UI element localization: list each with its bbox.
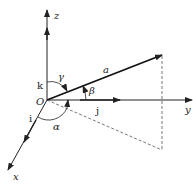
projection-base-dashed: [47, 100, 162, 150]
vector-a-label: a: [103, 64, 109, 75]
x-axis-label: x: [13, 171, 19, 182]
x-axis: [8, 100, 47, 170]
y-axis-label: y: [184, 104, 191, 115]
z-axis-label: z: [53, 10, 60, 21]
unit-vector-k-label: k: [37, 80, 44, 91]
angle-gamma-arc: [47, 82, 67, 91]
angle-gamma-label: γ: [58, 71, 64, 82]
origin-label: O: [36, 96, 44, 107]
angle-beta-arc: [83, 86, 86, 100]
angle-beta-label: β: [88, 85, 95, 96]
unit-vector-i-label: i: [29, 113, 32, 124]
unit-vector-j-label: j: [95, 105, 99, 116]
angle-alpha-label: α: [53, 121, 60, 132]
direction-angles-diagram: z k y j x i a O γ β α: [0, 0, 193, 184]
vector-a: [47, 55, 162, 100]
